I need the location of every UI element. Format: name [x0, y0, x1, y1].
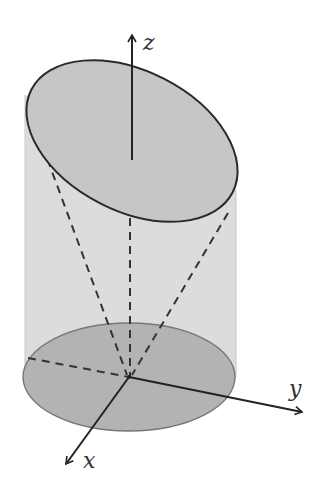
y-axis-label: y — [288, 376, 302, 401]
origin-point — [127, 375, 131, 379]
x-axis-label: x — [83, 448, 96, 473]
z-axis-label: z — [142, 30, 155, 55]
cylinder-diagram: z y x — [0, 0, 324, 497]
